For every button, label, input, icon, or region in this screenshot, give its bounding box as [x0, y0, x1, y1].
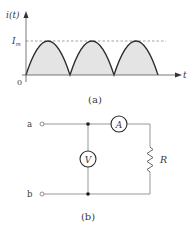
terminal-b-icon — [40, 192, 44, 196]
t-axis-arrow-icon — [175, 73, 182, 78]
caption-a: (a) — [88, 94, 102, 105]
figure-canvas: i(t) t 0 Im (a) a b A V — [0, 0, 190, 227]
y-axis-label: i(t) — [6, 10, 20, 20]
terminal-b-label: b — [27, 189, 33, 199]
junction-node-bottom — [86, 192, 90, 196]
waveform-plot: i(t) t 0 Im (a) — [6, 10, 187, 105]
junction-node-top — [86, 122, 90, 126]
x-axis-label: t — [183, 70, 187, 80]
caption-b: (b) — [81, 211, 95, 222]
ammeter-label: A — [115, 120, 123, 130]
waveform-fill — [26, 41, 158, 75]
peak-label: Im — [11, 36, 21, 47]
terminal-a-icon — [40, 122, 44, 126]
terminal-a-label: a — [27, 119, 32, 129]
origin-label: 0 — [17, 78, 22, 87]
i-axis-arrow-icon — [24, 11, 29, 18]
resistor-zigzag — [147, 147, 153, 172]
resistor-label: R — [159, 154, 167, 165]
circuit-diagram: a b A V R (b) — [27, 116, 167, 222]
